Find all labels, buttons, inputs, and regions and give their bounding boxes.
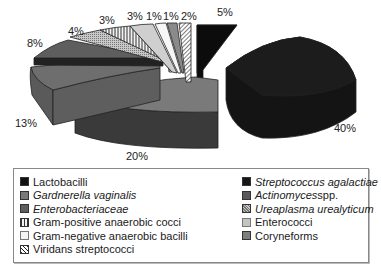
pct-label: 1% [146,10,162,22]
swatch-solid-icon [20,231,29,240]
legend-label: Gardnerella vaginalis [33,189,136,201]
legend-label: Coryneforms [255,230,318,242]
legend-item-actinomyces: Actinomyces spp. [242,189,378,203]
chart-legend: Lactobacilli Gardnerella vaginalis Enter… [13,168,369,263]
pct-label: 13% [15,117,37,129]
pie-chart [0,0,381,165]
legend-label-suffix: spp. [317,189,338,201]
pct-label: 3% [99,14,115,26]
legend-item-gardnerella: Gardnerella vaginalis [20,189,188,203]
legend-item-coryneforms: Coryneforms [242,229,378,243]
swatch-solid-icon [242,231,251,240]
pct-label: 4% [68,25,84,37]
legend-item-enterococci: Enterococci [242,216,378,230]
swatch-solid-icon [20,191,29,200]
legend-column-left: Lactobacilli Gardnerella vaginalis Enter… [20,175,188,256]
swatch-diagonal-hatch-icon [20,245,29,254]
legend-label: Enterobacteriaceae [33,203,128,215]
legend-label: Gram-negative anaerobic bacilli [33,230,188,242]
legend-column-right: Streptococcus agalactiae Actinomyces spp… [242,175,378,243]
swatch-solid-icon [242,177,251,186]
swatch-solid-icon [20,177,29,186]
pct-label: 20% [126,150,148,162]
legend-label: Viridans streptococci [33,243,134,255]
pct-label: 3% [127,10,143,22]
pct-label: 40% [334,122,356,134]
legend-item-gram-positive: Gram-positive anaerobic cocci [20,216,188,230]
legend-label: Enterococci [255,216,312,228]
legend-item-enterobacteriaceae: Enterobacteriaceae [20,202,188,216]
legend-item-lactobacilli: Lactobacilli [20,175,188,189]
swatch-vertical-stripes-icon [20,218,29,227]
legend-label: Streptococcus agalactiae [255,176,378,188]
legend-item-viridans: Viridans streptococci [20,243,188,257]
legend-item-streptococcus-agalactiae: Streptococcus agalactiae [242,175,378,189]
swatch-solid-icon [242,191,251,200]
swatch-solid-icon [20,204,29,213]
legend-label: Lactobacilli [33,176,87,188]
pct-label: 2% [181,10,197,22]
pct-label: 5% [217,6,233,18]
pct-label: 1% [163,10,179,22]
legend-label: Actinomyces [255,189,317,201]
legend-item-ureaplasma: Ureaplasma urealyticum [242,202,378,216]
legend-item-gram-negative: Gram-negative anaerobic bacilli [20,229,188,243]
pct-label: 8% [27,37,43,49]
swatch-solid-icon [242,218,251,227]
legend-label: Ureaplasma urealyticum [255,203,374,215]
legend-label: Gram-positive anaerobic cocci [33,216,181,228]
swatch-dotted-icon [242,204,251,213]
